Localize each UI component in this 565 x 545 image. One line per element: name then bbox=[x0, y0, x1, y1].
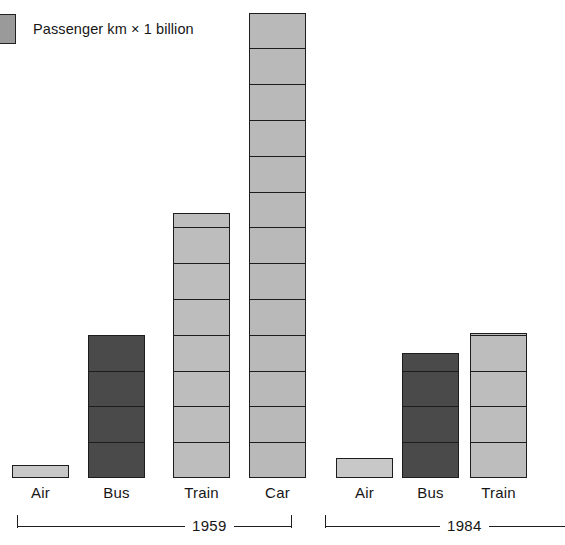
bar-segment bbox=[89, 336, 144, 372]
bar-segment bbox=[89, 372, 144, 408]
bar-segment bbox=[471, 443, 526, 479]
bar-car-1959 bbox=[249, 13, 306, 478]
bar-segment bbox=[174, 214, 229, 228]
bracket-cap-left bbox=[325, 515, 326, 528]
bar-segment bbox=[250, 193, 305, 229]
bracket-cap-right bbox=[291, 515, 292, 528]
bar-segment bbox=[250, 407, 305, 443]
bar-segment bbox=[250, 336, 305, 372]
bar-bus-1984 bbox=[402, 353, 459, 478]
bar-segment bbox=[174, 443, 229, 479]
bar-air-1984 bbox=[336, 458, 393, 478]
bar-segment bbox=[250, 372, 305, 408]
bar-segment bbox=[250, 157, 305, 193]
group-year-label: 1959 bbox=[185, 516, 234, 536]
year-bracket-1959: 1959 bbox=[17, 515, 292, 537]
bar-segment bbox=[250, 14, 305, 50]
bar-segment bbox=[174, 407, 229, 443]
bar-segment bbox=[250, 264, 305, 300]
bar-segment bbox=[471, 407, 526, 443]
bracket-cap-left bbox=[17, 515, 18, 528]
group-year-label: 1984 bbox=[440, 516, 489, 536]
x-tick-label-car-1959: Car bbox=[235, 484, 320, 501]
bar-segment bbox=[471, 336, 526, 372]
bar-segment bbox=[174, 228, 229, 264]
year-bracket-1984: 1984 bbox=[325, 515, 565, 537]
bar-segment bbox=[250, 228, 305, 264]
bar-air-1959 bbox=[12, 465, 69, 478]
bar-segment bbox=[89, 407, 144, 443]
bar-segment bbox=[403, 354, 458, 372]
legend-label: Passenger km × 1 billion bbox=[33, 21, 194, 37]
unit-block-swatch bbox=[0, 14, 16, 44]
bar-bus-1959 bbox=[88, 335, 145, 478]
bar-segment bbox=[174, 372, 229, 408]
bar-train-1984 bbox=[470, 333, 527, 478]
bar-segment bbox=[403, 372, 458, 408]
bar-segment bbox=[13, 466, 68, 479]
bar-segment bbox=[174, 264, 229, 300]
x-tick-label-train-1984: Train bbox=[456, 484, 541, 501]
x-tick-label-air-1959: Air bbox=[0, 484, 83, 501]
bracket-line bbox=[17, 526, 292, 527]
x-tick-label-bus-1959: Bus bbox=[74, 484, 159, 501]
bar-segment bbox=[89, 443, 144, 479]
x-tick-label-train-1959: Train bbox=[159, 484, 244, 501]
bar-segment bbox=[403, 443, 458, 479]
bar-segment bbox=[250, 49, 305, 85]
bar-segment bbox=[337, 459, 392, 479]
bar-segment bbox=[174, 336, 229, 372]
bar-segment bbox=[174, 300, 229, 336]
bar-segment bbox=[250, 443, 305, 479]
chart-legend: Passenger km × 1 billion bbox=[0, 14, 194, 44]
bar-segment bbox=[471, 372, 526, 408]
bar-train-1959 bbox=[173, 213, 230, 478]
bar-segment bbox=[403, 407, 458, 443]
bar-segment bbox=[250, 121, 305, 157]
bar-segment bbox=[250, 300, 305, 336]
bar-segment bbox=[250, 85, 305, 121]
